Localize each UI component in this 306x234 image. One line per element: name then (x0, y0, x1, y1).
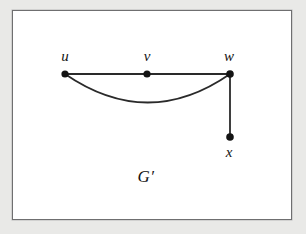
vertices-group (61, 70, 233, 141)
vertex-label-w: w (224, 49, 234, 64)
vertex-u (61, 70, 68, 77)
vertex-v (143, 70, 150, 77)
graph-name-label: G′ (138, 168, 155, 185)
vertex-w (226, 70, 234, 78)
vertex-x (226, 133, 234, 141)
vertex-label-x: x (226, 145, 233, 160)
edges-group (65, 74, 230, 137)
edge-uw-curve (65, 74, 230, 103)
vertex-label-v: v (144, 49, 151, 64)
graph-canvas (0, 0, 306, 234)
figure-root: uvwx G′ (0, 0, 306, 234)
vertex-label-u: u (61, 49, 69, 64)
